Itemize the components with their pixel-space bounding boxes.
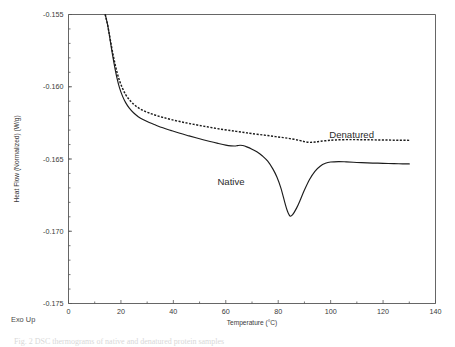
y-axis-tick-labels: -0.155-0.160-0.165-0.170-0.175 [43, 10, 63, 308]
x-axis-title: Temperature (°C) [227, 319, 278, 327]
x-tick-label: 40 [169, 307, 177, 316]
y-axis-title: Heat Flow (Normalized) (W/g) [13, 115, 21, 202]
exo-up-note: Exo Up [11, 315, 35, 324]
x-axis-tick-labels: 020406080100120140 [67, 307, 442, 316]
y-tick-label: -0.155 [43, 10, 63, 19]
x-tick-label: 140 [430, 307, 442, 316]
dsc-thermogram-figure: 020406080100120140 -0.155-0.160-0.165-0.… [0, 0, 455, 347]
series-label-native: Native [217, 176, 244, 187]
x-axis-ticks [69, 300, 436, 304]
x-tick-label: 0 [67, 307, 71, 316]
figure-caption-strip: Fig. 2 DSC thermograms of native and den… [0, 336, 455, 347]
x-tick-label: 120 [377, 307, 389, 316]
y-axis-ticks [69, 15, 73, 304]
chart-canvas: 020406080100120140 -0.155-0.160-0.165-0.… [0, 0, 455, 347]
y-tick-label: -0.160 [43, 82, 63, 91]
x-tick-label: 60 [222, 307, 230, 316]
y-tick-label: -0.175 [43, 299, 63, 308]
series-label-denatured: Denatured [329, 129, 374, 140]
x-tick-label: 80 [274, 307, 282, 316]
y-tick-label: -0.165 [43, 155, 63, 164]
series-line-native [105, 15, 409, 217]
y-tick-label: -0.170 [43, 227, 63, 236]
series-paths [105, 15, 409, 217]
figure-caption: Fig. 2 DSC thermograms of native and den… [14, 337, 224, 346]
x-tick-label: 100 [325, 307, 337, 316]
x-tick-label: 20 [117, 307, 125, 316]
plot-frame [69, 15, 436, 304]
